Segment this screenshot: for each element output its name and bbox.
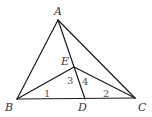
angle-label-2: 2 xyxy=(103,88,109,99)
point-label-E: E xyxy=(60,55,69,68)
point-label-C: C xyxy=(138,101,147,114)
point-label-A: A xyxy=(53,5,62,18)
point-label-B: B xyxy=(4,101,13,114)
segment-BC xyxy=(17,98,135,99)
geometry-diagram: A E B D C 1 2 3 4 xyxy=(0,0,152,117)
angle-label-1: 1 xyxy=(44,88,50,99)
point-label-D: D xyxy=(77,101,87,114)
angle-label-4: 4 xyxy=(82,76,88,87)
segment-AC xyxy=(58,20,135,98)
angle-label-3: 3 xyxy=(67,75,73,86)
